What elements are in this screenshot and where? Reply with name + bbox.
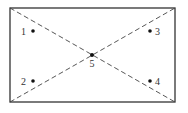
point-label: 2	[21, 76, 26, 87]
point-marker	[31, 79, 35, 83]
point-3: 3	[148, 26, 160, 37]
diagram-canvas: 1 2 3 4 5	[0, 0, 188, 113]
point-label: 1	[21, 26, 26, 37]
point-5: 5	[90, 53, 95, 69]
point-label: 3	[155, 26, 160, 37]
point-label: 4	[155, 76, 160, 87]
point-marker	[148, 29, 152, 33]
point-marker	[90, 53, 94, 57]
point-1: 1	[21, 26, 35, 37]
point-marker	[148, 79, 152, 83]
point-label: 5	[90, 58, 95, 69]
point-4: 4	[148, 76, 160, 87]
point-2: 2	[21, 76, 35, 87]
point-marker	[31, 29, 35, 33]
